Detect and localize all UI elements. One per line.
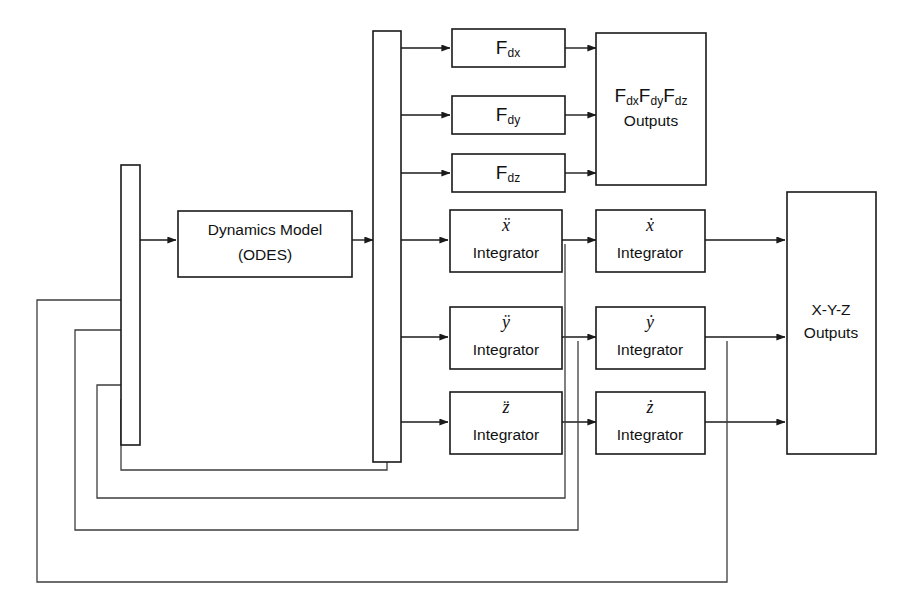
block-xyz-outputs[interactable]: X-Y-Z Outputs xyxy=(787,192,876,454)
block-fdy[interactable]: Fdy xyxy=(452,96,565,134)
block-ydot-integrator[interactable]: ẏ Integrator xyxy=(596,307,705,369)
zddot-var: z̈ xyxy=(501,397,509,417)
input-bus-bar[interactable] xyxy=(121,165,140,445)
fdz-base: F xyxy=(496,162,508,183)
xdot-var: ẋ xyxy=(645,215,654,235)
fd-outputs-a: F xyxy=(615,85,627,106)
dynamics-model-line1: Dynamics Model xyxy=(208,221,323,238)
block-zdot-integrator[interactable]: ż Integrator xyxy=(596,392,705,454)
fdx-sub: dx xyxy=(507,46,520,60)
xyz-outputs-line1: X-Y-Z xyxy=(811,301,850,318)
wire-feedback-xddot-to-input-bus xyxy=(97,244,565,498)
wire-feedback-distribution-bus-to-input-bus xyxy=(121,400,387,470)
block-diagram-svg: Dynamics Model (ODES) Fdx Fdy Fdz xyxy=(0,0,910,610)
block-xdot-integrator[interactable]: ẋ Integrator xyxy=(596,210,705,272)
block-yddot-integrator[interactable]: ÿ Integrator xyxy=(450,307,562,369)
fdy-sub: dy xyxy=(507,113,520,127)
dynamics-model-line2: (ODES) xyxy=(238,246,292,263)
ydot-integrator-label: Integrator xyxy=(617,341,683,358)
xdot-integrator-label: Integrator xyxy=(617,244,683,261)
fd-outputs-c: F xyxy=(663,85,675,106)
xddot-integrator-label: Integrator xyxy=(473,244,539,261)
block-fdz[interactable]: Fdz xyxy=(452,154,565,192)
fd-outputs-line2: Outputs xyxy=(624,112,679,129)
zdot-integrator-label: Integrator xyxy=(617,426,683,443)
zddot-integrator-label: Integrator xyxy=(473,426,539,443)
block-fd-outputs[interactable]: FdxFdyFdz Outputs xyxy=(596,33,706,185)
xddot-var: ẍ xyxy=(501,215,510,235)
fdy-base: F xyxy=(496,104,508,125)
block-dynamics-model[interactable]: Dynamics Model (ODES) xyxy=(178,211,352,277)
block-zddot-integrator[interactable]: z̈ Integrator xyxy=(450,392,562,454)
yddot-integrator-label: Integrator xyxy=(473,341,539,358)
block-xddot-integrator[interactable]: ẍ Integrator xyxy=(450,210,562,272)
fd-outputs-b-sub: dy xyxy=(650,94,663,108)
fd-outputs-a-sub: dx xyxy=(626,94,639,108)
ydot-var: ẏ xyxy=(644,312,655,332)
fdx-base: F xyxy=(496,37,508,58)
distribution-bus-bar[interactable] xyxy=(373,31,401,462)
block-fdx[interactable]: Fdx xyxy=(452,29,565,67)
yddot-var: ÿ xyxy=(500,312,510,332)
fd-outputs-c-sub: dz xyxy=(675,94,688,108)
zdot-var: ż xyxy=(645,397,653,417)
fdz-sub: dz xyxy=(507,171,520,185)
fd-outputs-b: F xyxy=(639,85,651,106)
block-diagram-canvas: Dynamics Model (ODES) Fdx Fdy Fdz xyxy=(0,0,910,610)
xyz-outputs-line2: Outputs xyxy=(804,324,859,341)
